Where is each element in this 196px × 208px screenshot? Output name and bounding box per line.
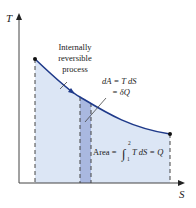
process-label-line-3: process xyxy=(62,64,88,74)
differential-strip xyxy=(80,97,91,183)
integral-lower-limit: 1 xyxy=(127,156,130,162)
state-point-2 xyxy=(168,132,172,136)
ts-diagram: T S Internally reversible process dA = T… xyxy=(0,0,196,208)
area-label-prefix: Area = xyxy=(93,147,117,157)
x-axis-arrow-icon xyxy=(178,180,185,186)
process-label-line-2: reversible xyxy=(58,53,92,63)
state-point-1 xyxy=(33,57,37,61)
strip-label-line-2: = δQ xyxy=(112,87,130,97)
integral-upper-limit: 2 xyxy=(128,140,131,146)
y-axis-label: T xyxy=(6,12,13,24)
x-axis-label: S xyxy=(179,188,185,200)
area-label-suffix: T dS = Q xyxy=(132,147,163,157)
y-axis-arrow-icon xyxy=(16,13,22,20)
strip-label-line-1: dA = T dS xyxy=(102,76,137,86)
process-label-line-1: Internally xyxy=(58,42,92,52)
